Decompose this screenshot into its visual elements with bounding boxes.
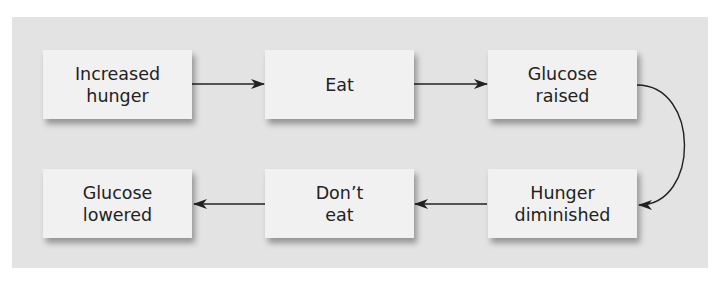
node-label-line1: Don’t <box>316 182 364 204</box>
node-label-line2: raised <box>536 85 590 107</box>
node-label-line1: Eat <box>325 74 354 96</box>
node-label-line1: Increased <box>75 63 160 85</box>
node-glucose-raised: Glucose raised <box>488 50 637 119</box>
node-label-line2: eat <box>325 204 353 226</box>
node-increased-hunger: Increased hunger <box>43 50 192 119</box>
arrow-glucose-raised-to-hunger-diminished <box>637 85 685 205</box>
node-glucose-lowered: Glucose lowered <box>43 169 192 238</box>
node-label-line1: Glucose <box>528 63 598 85</box>
node-label-line2: lowered <box>83 204 152 226</box>
node-eat: Eat <box>265 50 414 119</box>
node-dont-eat: Don’t eat <box>265 169 414 238</box>
node-label-line2: hunger <box>86 85 148 107</box>
flow-arrows <box>0 0 722 288</box>
node-label-line2: diminished <box>515 204 611 226</box>
node-label-line1: Hunger <box>530 182 594 204</box>
node-label-line1: Glucose <box>83 182 153 204</box>
node-hunger-diminished: Hunger diminished <box>488 169 637 238</box>
